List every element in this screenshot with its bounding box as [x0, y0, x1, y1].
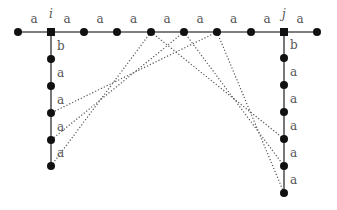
left-column-node [47, 162, 55, 170]
top-node [80, 28, 88, 36]
right_column-edge-label: b [290, 38, 298, 52]
right-column-node [280, 108, 288, 116]
right-column-node [280, 81, 288, 89]
top-edge-label: a [130, 12, 137, 26]
left_column-edge-label: a [57, 93, 64, 107]
dotted-edge [151, 32, 284, 139]
vertex-label-i: i [49, 7, 53, 21]
top-edge-label: a [64, 12, 71, 26]
dotted-edge [184, 32, 284, 166]
left_column-edge-label: b [57, 39, 65, 53]
graph-diagram: aaaaaaaaabaaaabaaaaa i j [0, 0, 337, 210]
top-node [247, 28, 255, 36]
right-column-node [280, 54, 288, 62]
vertex-label-j: j [279, 7, 286, 21]
right_column-edge-label: a [290, 146, 297, 160]
top-edge-label: a [197, 12, 204, 26]
right-column-node [280, 135, 288, 143]
top-node [147, 28, 155, 36]
left_column-edge-label: a [57, 146, 64, 160]
dotted-edges [51, 32, 284, 193]
right_column-edge-label: a [290, 65, 297, 79]
right_column-edge-label: a [290, 92, 297, 106]
right-column-node [280, 189, 288, 197]
top-edge-label: a [97, 12, 104, 26]
top-node [113, 28, 121, 36]
right_column-edge-label: a [290, 119, 297, 133]
right-column-node [280, 162, 288, 170]
top-edge-label: a [31, 12, 38, 26]
right_column-edge-label: a [290, 173, 297, 187]
left-column-node [47, 82, 55, 90]
top-edge-label: a [264, 12, 271, 26]
edge-labels: aaaaaaaaabaaaabaaaaa [31, 12, 304, 187]
top-node [213, 28, 221, 36]
left-column-node [47, 136, 55, 144]
vertex-i [47, 28, 55, 36]
dotted-edge [217, 32, 284, 193]
left-column-node [47, 109, 55, 117]
top-edge-label: a [297, 12, 304, 26]
vertex-j [280, 28, 288, 36]
dotted-edge [51, 32, 184, 140]
left_column-edge-label: a [57, 66, 64, 80]
top-node [313, 28, 321, 36]
top-node [14, 28, 22, 36]
top-node [180, 28, 188, 36]
top-edge-label: a [164, 12, 171, 26]
left_column-edge-label: a [57, 120, 64, 134]
top-edge-label: a [230, 12, 237, 26]
left-column-node [47, 55, 55, 63]
